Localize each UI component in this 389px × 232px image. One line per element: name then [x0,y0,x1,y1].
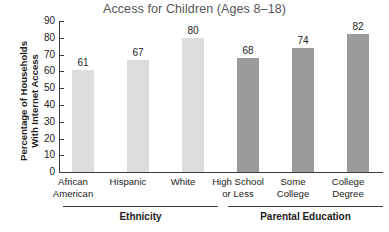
group-label-parental-education: Parental Education [228,206,383,222]
y-tick-label-30: 30 [44,117,55,127]
group-label-ethnicity: Ethnicity [63,206,218,222]
bar-chart: Access for Children (Ages 8–18) Percenta… [0,0,389,232]
chart-title: Access for Children (Ages 8–18) [0,2,389,16]
group-title: Ethnicity [63,211,218,222]
y-tick-label-60: 60 [44,66,55,76]
y-tick-label-90: 90 [44,16,55,26]
y-tick-label-50: 50 [44,83,55,93]
y-tick-10 [60,155,64,156]
bar-hispanic[interactable]: 67 [127,60,149,172]
y-axis-label: Percentage of Households With Internet A… [14,26,44,176]
y-tick-label-10: 10 [44,150,55,160]
bar-value-label: 74 [297,35,308,46]
bar-value-label: 61 [77,57,88,68]
bar-african-american[interactable]: 61 [72,70,94,172]
group-rule [63,206,218,207]
category-line: American [35,188,111,200]
y-tick-70 [60,55,64,56]
bar-value-label: 68 [242,45,253,56]
y-tick-0 [60,172,64,173]
bar-white[interactable]: 80 [182,38,204,172]
group-title: Parental Education [228,211,383,222]
y-tick-80 [60,38,64,39]
bar-some-college[interactable]: 74 [292,48,314,172]
y-axis-label-line-2: With Internet Access [29,54,41,148]
category-line: College [310,176,386,188]
y-tick-label-40: 40 [44,100,55,110]
y-tick-40 [60,105,64,106]
bar-value-label: 67 [132,47,143,58]
bar-value-label: 80 [187,25,198,36]
plot-area: 90 80 70 60 50 40 30 20 10 0 61 67 80 68… [59,21,383,173]
y-tick-30 [60,122,64,123]
y-tick-label-80: 80 [44,33,55,43]
y-tick-label-70: 70 [44,50,55,60]
y-axis-label-line-1: Percentage of Households [18,41,30,161]
category-line: Degree [310,188,386,200]
y-tick-20 [60,139,64,140]
group-rule [228,206,383,207]
y-tick-50 [60,88,64,89]
bar-value-label: 82 [352,21,363,32]
x-axis-line [59,172,383,173]
bar-college-degree[interactable]: 82 [347,34,369,172]
y-axis-line [59,21,60,173]
y-tick-90 [60,21,64,22]
category-label-college-degree: College Degree [310,176,386,199]
bar-high-school-or-less[interactable]: 68 [237,58,259,172]
y-tick-60 [60,71,64,72]
y-tick-label-20: 20 [44,134,55,144]
